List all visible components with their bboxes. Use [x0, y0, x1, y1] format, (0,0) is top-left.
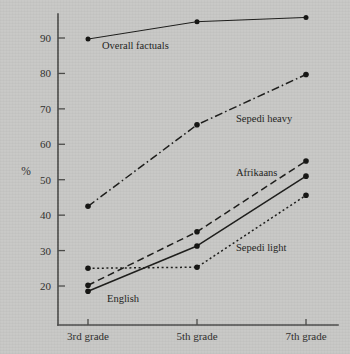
- y-tick-label: 40: [40, 209, 52, 221]
- axis-titles: %: [21, 165, 31, 177]
- data-point: [303, 72, 309, 78]
- data-point: [85, 265, 91, 271]
- series-label-english: English: [107, 293, 140, 304]
- x-tick-label: 7th grade: [285, 330, 326, 342]
- y-tick-label: 90: [40, 32, 52, 44]
- series-label-sepedi-light: Sepedi light: [236, 242, 287, 253]
- data-point: [194, 264, 200, 270]
- data-point: [194, 122, 200, 128]
- data-point: [86, 37, 91, 42]
- chart-figure: 2030405060708090 3rd grade5th grade7th g…: [0, 0, 350, 354]
- y-tick-label: 30: [40, 245, 52, 257]
- y-tick-label: 70: [40, 103, 52, 115]
- data-point: [303, 158, 309, 164]
- series-label-afrikaans: Afrikaans: [236, 167, 277, 178]
- x-tick-label: 5th grade: [176, 330, 217, 342]
- y-tick-label: 80: [40, 67, 52, 79]
- data-point: [303, 193, 309, 199]
- y-tick-label: 60: [40, 138, 52, 150]
- y-tick-label: 50: [40, 174, 52, 186]
- x-tick-label: 3rd grade: [67, 330, 109, 342]
- data-point: [303, 173, 309, 179]
- y-axis-title: %: [21, 165, 31, 177]
- chart-background: [0, 0, 350, 354]
- series-label-overall-factuals: Overall factuals: [102, 40, 169, 51]
- line-chart: 2030405060708090 3rd grade5th grade7th g…: [0, 0, 350, 354]
- data-point: [195, 19, 200, 24]
- data-point: [194, 229, 200, 235]
- y-tick-label: 20: [40, 280, 52, 292]
- data-point: [194, 243, 200, 249]
- series-label-sepedi-heavy: Sepedi heavy: [236, 113, 293, 124]
- data-point: [85, 203, 91, 209]
- data-point: [85, 282, 91, 288]
- data-point: [304, 15, 309, 20]
- data-point: [85, 289, 91, 295]
